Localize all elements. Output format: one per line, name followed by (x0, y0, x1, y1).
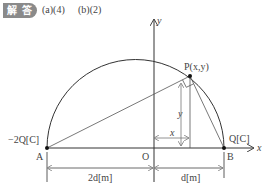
point-p-label: P(x,y) (184, 61, 209, 73)
point-p (188, 74, 192, 78)
x-axis-label: x (256, 142, 262, 153)
dist-ao-label: 2d[m] (88, 172, 112, 183)
dist-ob-label: d[m] (181, 172, 200, 183)
x-dim-label: x (169, 127, 175, 138)
charge-b-label: Q[C] (229, 133, 250, 144)
point-a (45, 146, 49, 150)
y-dim-label: y (177, 108, 183, 119)
point-b-label: B (227, 151, 234, 162)
charge-a-label: −2Q[C] (8, 134, 39, 145)
line-ap (47, 76, 190, 148)
point-a-label: A (36, 151, 44, 162)
y-axis-label: y (156, 15, 162, 26)
origin-label: O (142, 151, 149, 162)
point-b (222, 146, 226, 150)
line-bp (190, 76, 224, 148)
physics-diagram: y x O A B P(x,y) −2Q[C] Q[C] y x 2d[m] d… (0, 0, 265, 189)
